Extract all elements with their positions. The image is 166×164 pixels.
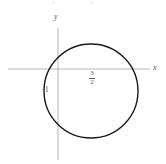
coordinate-plot (0, 0, 166, 164)
graph-figure: y x -1 3 2 (0, 0, 166, 164)
fraction-numerator: 3 (84, 70, 100, 77)
x-axis-label: x (153, 64, 157, 72)
x-intercept-tick-label: -1 (42, 86, 49, 94)
y-axis-label: y (54, 13, 58, 21)
fraction-denominator: 2 (84, 79, 100, 86)
center-fraction-label: 3 2 (84, 70, 100, 87)
